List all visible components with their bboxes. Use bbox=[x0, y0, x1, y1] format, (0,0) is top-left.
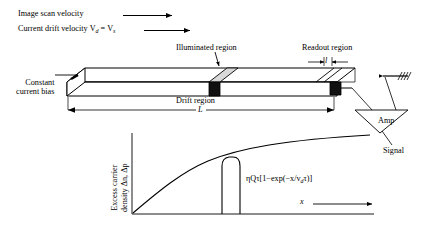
constant-current-bias-line1: Constant bbox=[16, 78, 54, 87]
illuminated-region-pointer bbox=[215, 52, 219, 66]
readout-region-label: Readout region bbox=[302, 43, 352, 52]
readout-spike bbox=[222, 157, 240, 214]
constant-current-bias-label: Constant current bias bbox=[16, 78, 54, 97]
drift-length-label: L bbox=[198, 105, 203, 114]
equation-tail: τ)] bbox=[304, 174, 313, 183]
current-drift-velocity-label: Current drift velocity Vd = Vs bbox=[18, 24, 115, 34]
image-scan-velocity-label: Image scan velocity bbox=[18, 9, 83, 18]
figure-root: Image scan velocity Current drift veloci… bbox=[0, 0, 435, 226]
plot-y-axis-label: Excess carrier density Δn, Δp bbox=[110, 163, 131, 212]
plot-equation-annotation: ηQτ[1−exp(−x/vdτ)] bbox=[246, 174, 312, 184]
plot-x-axis-label: x bbox=[300, 197, 304, 206]
equation-head: ηQτ[1−exp(−x/v bbox=[246, 174, 301, 183]
constant-current-bias-line2: current bias bbox=[16, 87, 54, 96]
signal-label: Signal bbox=[383, 146, 404, 155]
illuminated-front bbox=[209, 82, 220, 96]
amplifier-symbol bbox=[352, 77, 408, 145]
drift-region-label: Drift region bbox=[176, 96, 215, 105]
amp-ground-lead bbox=[385, 77, 396, 110]
amp-output-lead bbox=[382, 131, 392, 145]
vs-subscript: s bbox=[113, 28, 115, 34]
amp-input-lead bbox=[352, 88, 372, 110]
plot-y-axis-label-line2: density Δn, Δp bbox=[120, 163, 130, 212]
spike-outline bbox=[222, 157, 240, 214]
readout-length-label: l bbox=[325, 56, 327, 65]
current-drift-velocity-text: Current drift velocity bbox=[18, 24, 88, 33]
readout-dimension bbox=[308, 57, 348, 66]
ground-symbol bbox=[383, 72, 411, 80]
readout-contact bbox=[330, 82, 341, 95]
illuminated-region-label: Illuminated region bbox=[176, 43, 237, 52]
equals-sign: = bbox=[99, 24, 108, 33]
amp-label: Amp bbox=[378, 116, 394, 125]
plot-y-axis-label-line1: Excess carrier bbox=[110, 163, 120, 212]
slab-front-face bbox=[67, 82, 337, 96]
